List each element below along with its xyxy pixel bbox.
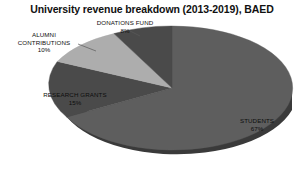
slice-label-donations-fund: DONATIONS FUND 8% [92,19,158,34]
slice-label-students-pct: 67% [228,125,286,133]
slice-label-alumni-line2: CONTRIBUTIONS [18,39,71,46]
slice-label-research-grants: RESEARCH GRANTS 15% [40,91,110,106]
slice-label-research-grants-text: RESEARCH GRANTS [43,91,106,98]
slice-label-research-grants-pct: 15% [40,99,110,107]
slice-label-students: STUDENTS 67% [228,117,286,132]
slice-label-donations-fund-text: DONATIONS FUND [97,19,154,26]
slice-label-donations-fund-pct: 8% [92,27,158,35]
slice-label-students-text: STUDENTS [240,117,274,124]
slice-label-alumni-line1: ALUMNI [32,31,56,38]
pie-chart: University revenue breakdown (2013-2019)… [0,0,304,192]
slice-label-alumni-pct: 10% [6,46,82,54]
slice-label-alumni-contributions: ALUMNI CONTRIBUTIONS 10% [6,31,82,54]
